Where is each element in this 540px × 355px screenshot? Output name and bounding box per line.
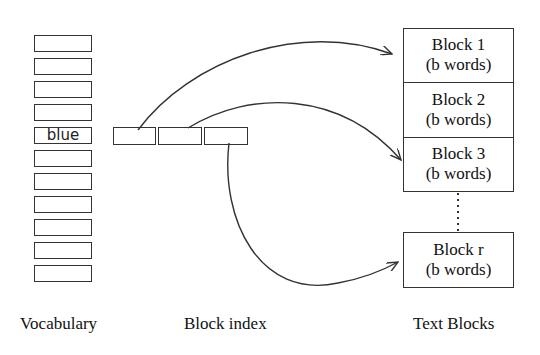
vocabulary-label: Vocabulary xyxy=(20,314,97,334)
arrow-to-block-1 xyxy=(138,42,392,130)
text-blocks-label: Text Blocks xyxy=(413,314,494,334)
arrows-layer xyxy=(0,0,540,355)
arrow-to-block-r xyxy=(228,143,398,285)
block-index-label: Block index xyxy=(184,314,267,334)
arrow-to-block-3 xyxy=(188,103,401,160)
